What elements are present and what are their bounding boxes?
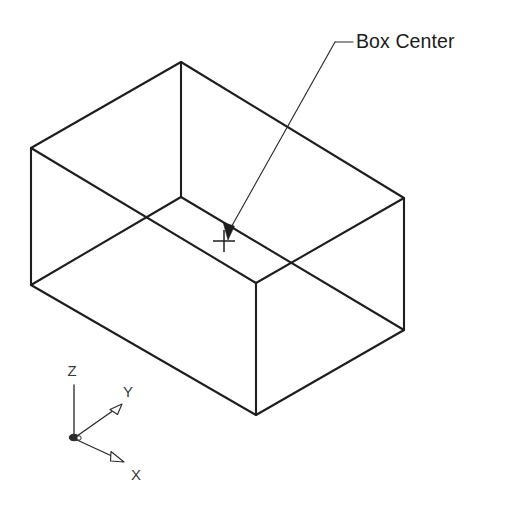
- ucs-y-axis-line: [77, 410, 114, 436]
- box-wireframe: [31, 62, 404, 415]
- box-edge-bottom-front-left: [31, 285, 256, 415]
- box-center-diagram: Box Center Z Y X: [0, 0, 518, 506]
- ucs-origin-inner-circle: [77, 436, 81, 440]
- ucs-y-arrowhead-icon: [110, 404, 122, 415]
- diagram-canvas: Box Center Z Y X: [0, 0, 518, 506]
- callout-leader: [223, 42, 353, 240]
- box-edge-top-back-left: [31, 62, 181, 148]
- box-center-crosshair: [213, 230, 235, 252]
- ucs-label-y: Y: [123, 383, 133, 400]
- box-edge-top-front-right: [256, 198, 404, 283]
- box-edge-bottom-back-left: [31, 197, 181, 285]
- box-edge-top-front-left: [31, 148, 256, 283]
- box-edge-top-back-right: [181, 62, 404, 198]
- ucs-label-z: Z: [67, 362, 76, 379]
- ucs-axis-indicator: Z Y X: [67, 362, 141, 483]
- box-center-label: Box Center: [356, 30, 455, 52]
- ucs-label-x: X: [131, 466, 141, 483]
- box-edge-bottom-front-right: [256, 330, 404, 415]
- ucs-x-arrowhead-icon: [111, 452, 125, 463]
- ucs-x-axis-line: [77, 440, 114, 457]
- leader-diagonal: [229, 42, 335, 231]
